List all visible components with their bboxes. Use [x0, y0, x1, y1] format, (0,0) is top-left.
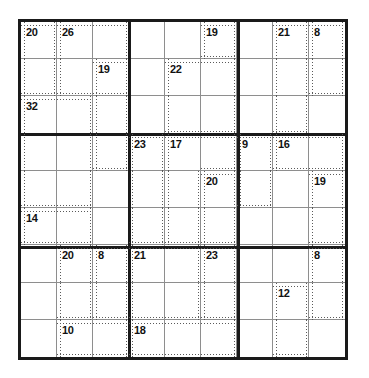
sudoku-cell-r4c6[interactable]: [201, 134, 237, 171]
sudoku-cell-r9c5[interactable]: [165, 320, 201, 357]
sudoku-cell-r6c8[interactable]: [273, 208, 309, 245]
sudoku-cell-r6c1[interactable]: [21, 208, 57, 245]
sudoku-cell-r6c6[interactable]: [201, 208, 237, 245]
sudoku-cell-r7c7[interactable]: [237, 245, 273, 282]
sudoku-cell-r7c9[interactable]: [309, 245, 345, 282]
sudoku-cell-r1c6[interactable]: [201, 22, 237, 59]
killer-sudoku-puzzle: 2026193219222182317209161914208102123188…: [0, 0, 369, 378]
sudoku-cell-r3c2[interactable]: [57, 96, 93, 133]
sudoku-cell-r2c3[interactable]: [93, 59, 129, 96]
sudoku-cell-r3c3[interactable]: [93, 96, 129, 133]
sudoku-cell-r2c1[interactable]: [21, 59, 57, 96]
sudoku-cell-r8c4[interactable]: [129, 283, 165, 320]
sudoku-cell-r5c7[interactable]: [237, 171, 273, 208]
sudoku-cell-r2c6[interactable]: [201, 59, 237, 96]
sudoku-cell-r5c6[interactable]: [201, 171, 237, 208]
sudoku-cell-r6c2[interactable]: [57, 208, 93, 245]
box-divider-horizontal-2: [21, 246, 345, 249]
box-divider-vertical-1: [128, 22, 131, 357]
sudoku-cell-r9c8[interactable]: [273, 320, 309, 357]
sudoku-cell-r7c8[interactable]: [273, 245, 309, 282]
sudoku-cell-r6c4[interactable]: [129, 208, 165, 245]
sudoku-cell-r3c4[interactable]: [129, 96, 165, 133]
sudoku-cell-r3c5[interactable]: [165, 96, 201, 133]
sudoku-cell-r4c4[interactable]: [129, 134, 165, 171]
sudoku-cell-r9c6[interactable]: [201, 320, 237, 357]
sudoku-cell-r7c4[interactable]: [129, 245, 165, 282]
sudoku-cell-r4c1[interactable]: [21, 134, 57, 171]
sudoku-cell-r5c1[interactable]: [21, 171, 57, 208]
sudoku-cell-r6c5[interactable]: [165, 208, 201, 245]
sudoku-grid[interactable]: 2026193219222182317209161914208102123188…: [18, 19, 348, 360]
sudoku-cell-r1c7[interactable]: [237, 22, 273, 59]
sudoku-cell-r3c7[interactable]: [237, 96, 273, 133]
sudoku-cell-r3c1[interactable]: [21, 96, 57, 133]
sudoku-cell-r3c8[interactable]: [273, 96, 309, 133]
sudoku-cell-r8c1[interactable]: [21, 283, 57, 320]
sudoku-cell-r1c9[interactable]: [309, 22, 345, 59]
sudoku-cell-r4c8[interactable]: [273, 134, 309, 171]
sudoku-cell-r5c3[interactable]: [93, 171, 129, 208]
sudoku-cell-r2c2[interactable]: [57, 59, 93, 96]
sudoku-cell-r8c3[interactable]: [93, 283, 129, 320]
sudoku-cell-r8c5[interactable]: [165, 283, 201, 320]
sudoku-cell-r9c7[interactable]: [237, 320, 273, 357]
sudoku-cell-r8c2[interactable]: [57, 283, 93, 320]
sudoku-cell-r1c2[interactable]: [57, 22, 93, 59]
sudoku-cell-r1c1[interactable]: [21, 22, 57, 59]
sudoku-cell-r2c8[interactable]: [273, 59, 309, 96]
sudoku-cell-r4c9[interactable]: [309, 134, 345, 171]
cell-layer: [21, 22, 345, 357]
sudoku-cell-r7c1[interactable]: [21, 245, 57, 282]
sudoku-cell-r7c3[interactable]: [93, 245, 129, 282]
sudoku-cell-r1c5[interactable]: [165, 22, 201, 59]
sudoku-cell-r6c7[interactable]: [237, 208, 273, 245]
box-divider-vertical-2: [237, 22, 240, 357]
sudoku-cell-r8c6[interactable]: [201, 283, 237, 320]
sudoku-cell-r2c4[interactable]: [129, 59, 165, 96]
sudoku-cell-r9c9[interactable]: [309, 320, 345, 357]
sudoku-cell-r5c9[interactable]: [309, 171, 345, 208]
sudoku-cell-r8c7[interactable]: [237, 283, 273, 320]
sudoku-cell-r9c1[interactable]: [21, 320, 57, 357]
sudoku-cell-r6c3[interactable]: [93, 208, 129, 245]
box-divider-horizontal-1: [21, 133, 345, 136]
sudoku-cell-r5c8[interactable]: [273, 171, 309, 208]
sudoku-cell-r7c2[interactable]: [57, 245, 93, 282]
sudoku-cell-r1c4[interactable]: [129, 22, 165, 59]
sudoku-cell-r7c6[interactable]: [201, 245, 237, 282]
sudoku-cell-r2c5[interactable]: [165, 59, 201, 96]
sudoku-cell-r3c9[interactable]: [309, 96, 345, 133]
sudoku-cell-r1c8[interactable]: [273, 22, 309, 59]
sudoku-cell-r5c5[interactable]: [165, 171, 201, 208]
sudoku-cell-r6c9[interactable]: [309, 208, 345, 245]
sudoku-cell-r2c7[interactable]: [237, 59, 273, 96]
sudoku-cell-r1c3[interactable]: [93, 22, 129, 59]
sudoku-cell-r2c9[interactable]: [309, 59, 345, 96]
sudoku-cell-r4c3[interactable]: [93, 134, 129, 171]
sudoku-cell-r8c9[interactable]: [309, 283, 345, 320]
sudoku-cell-r4c7[interactable]: [237, 134, 273, 171]
sudoku-cell-r8c8[interactable]: [273, 283, 309, 320]
sudoku-cell-r4c5[interactable]: [165, 134, 201, 171]
sudoku-cell-r9c2[interactable]: [57, 320, 93, 357]
sudoku-cell-r7c5[interactable]: [165, 245, 201, 282]
sudoku-cell-r4c2[interactable]: [57, 134, 93, 171]
sudoku-cell-r5c4[interactable]: [129, 171, 165, 208]
sudoku-cell-r9c3[interactable]: [93, 320, 129, 357]
sudoku-cell-r9c4[interactable]: [129, 320, 165, 357]
sudoku-cell-r5c2[interactable]: [57, 171, 93, 208]
sudoku-cell-r3c6[interactable]: [201, 96, 237, 133]
